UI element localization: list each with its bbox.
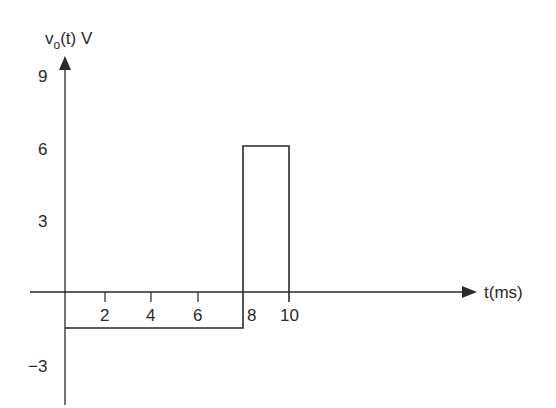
y-axis-arrow-icon <box>59 56 71 70</box>
y-tick-label: 3 <box>38 212 47 231</box>
x-tick-label: 6 <box>193 306 202 325</box>
x-ticks <box>105 292 198 302</box>
y-axis-label: vo(t) V <box>45 29 93 52</box>
waveform-chart: 2 4 6 8 10 9 6 3 −3 vo(t) V t(ms) <box>0 0 556 408</box>
waveform-series <box>65 146 289 328</box>
x-tick-label: 10 <box>280 306 299 325</box>
y-tick-label: 6 <box>38 140 47 159</box>
y-tick-label: 9 <box>38 67 47 86</box>
x-axis-arrow-icon <box>462 286 477 298</box>
x-tick-label: 2 <box>100 306 109 325</box>
x-tick-label: 8 <box>247 306 256 325</box>
x-axis-label: t(ms) <box>484 283 523 302</box>
x-tick-label: 4 <box>146 306 155 325</box>
y-tick-label: −3 <box>28 357 47 376</box>
